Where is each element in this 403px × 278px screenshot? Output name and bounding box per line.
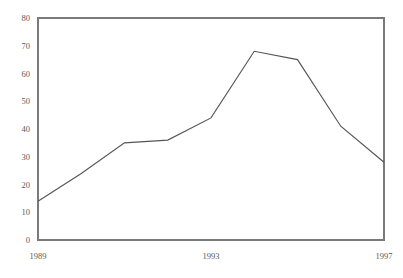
y-tick-label: 30 xyxy=(22,152,31,162)
x-tick-label: 1997 xyxy=(376,251,393,261)
y-tick-label: 10 xyxy=(22,207,31,217)
y-tick-label: 0 xyxy=(26,235,30,245)
y-tick-label: 70 xyxy=(22,41,31,51)
chart-container: 01020304050607080 198919931997 xyxy=(0,0,403,278)
y-axis-tick-labels: 01020304050607080 xyxy=(22,13,31,245)
line-chart-plot: 01020304050607080 198919931997 xyxy=(0,0,403,278)
y-tick-label: 40 xyxy=(22,124,31,134)
x-axis-tick-labels: 198919931997 xyxy=(30,251,393,261)
plot-frame xyxy=(38,18,384,240)
series-line-path xyxy=(38,51,384,201)
y-tick-label: 80 xyxy=(22,13,31,23)
x-tick-label: 1989 xyxy=(30,251,47,261)
y-tick-label: 50 xyxy=(22,96,31,106)
data-series-group xyxy=(38,51,384,201)
y-tick-label: 60 xyxy=(22,69,31,79)
x-tick-label: 1993 xyxy=(203,251,220,261)
y-tick-label: 20 xyxy=(22,180,31,190)
